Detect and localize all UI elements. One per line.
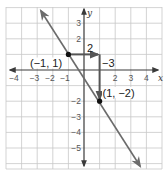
svg-text:−2: −2 (71, 96, 81, 106)
rise-label: −3 (102, 57, 115, 69)
svg-text:−1: −1 (60, 73, 70, 83)
svg-text:2: 2 (113, 73, 118, 83)
svg-text:4: 4 (144, 73, 149, 83)
run-label: 2 (87, 42, 93, 54)
point-1-neg2 (97, 99, 102, 104)
svg-text:−3: −3 (30, 73, 40, 83)
x-tick-labels: −4 −3 −2 −1 2 3 4 (9, 73, 149, 83)
x-axis-label: x (158, 73, 163, 83)
point-neg1-1 (66, 52, 71, 57)
svg-text:3: 3 (128, 73, 133, 83)
svg-text:2: 2 (76, 34, 81, 44)
svg-text:−3: −3 (71, 112, 81, 122)
point-label-1-neg2: (1, −2) (103, 87, 135, 99)
svg-text:−2: −2 (45, 73, 55, 83)
svg-text:−4: −4 (71, 127, 81, 137)
y-axis-label: y (86, 8, 93, 18)
svg-text:−4: −4 (9, 73, 19, 83)
svg-text:−5: −5 (71, 143, 81, 153)
coordinate-graph: x y −4 −3 −2 −1 2 3 4 3 2 −2 −3 −4 −5 (−… (0, 0, 168, 176)
point-label-neg1-1: (−1, 1) (30, 57, 62, 69)
svg-text:3: 3 (76, 18, 81, 28)
